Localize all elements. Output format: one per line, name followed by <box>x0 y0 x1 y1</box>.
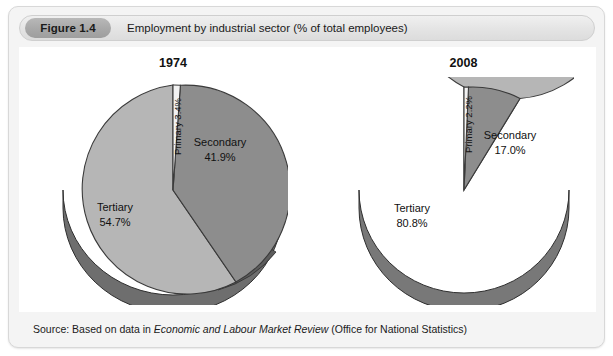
pie-chart-1974-title: 1974 <box>19 56 327 70</box>
pie-2008-label-tertiary-value: 80.8% <box>396 217 427 229</box>
figure-source-publication: Economic and Labour Market Review <box>154 323 329 335</box>
pie-1974-label-secondary-value: 41.9% <box>204 151 235 163</box>
figure-root: Figure 1.4 Employment by industrial sect… <box>0 0 613 356</box>
pie-2008-depth <box>359 190 569 305</box>
figure-source-prefix: Source: Based on data in <box>33 323 154 335</box>
pie-1974-label-primary: Primary 3.4% <box>172 97 183 155</box>
pie-1974-label-secondary-name: Secondary <box>194 136 247 148</box>
pie-chart-1974-canvas: Primary 3.4% Secondary 41.9% Tertiary 54… <box>19 77 327 305</box>
pie-1974-label-tertiary-name: Tertiary <box>97 201 134 213</box>
pie-chart-1974: 1974 <box>19 47 327 312</box>
figure-source: Source: Based on data in Economic and La… <box>33 323 467 335</box>
pie-2008-label-secondary-value: 17.0% <box>494 144 525 156</box>
pie-2008-label-primary: Primary 2.2% <box>463 95 474 153</box>
figure-number-badge: Figure 1.4 <box>25 18 111 38</box>
pie-chart-2008-title: 2008 <box>331 56 596 70</box>
pie-2008-label-secondary-name: Secondary <box>483 129 536 141</box>
pie-1974-label-tertiary-value: 54.7% <box>99 216 130 228</box>
pie-chart-2008-canvas: Primary 2.2% Secondary 17.0% Tertiary 80… <box>331 77 596 305</box>
figure-card: Figure 1.4 Employment by industrial sect… <box>8 6 605 348</box>
pie-2008-label-tertiary-name: Tertiary <box>393 202 430 214</box>
figure-source-suffix: (Office for National Statistics) <box>328 323 467 335</box>
figure-header: Figure 1.4 Employment by industrial sect… <box>19 15 595 41</box>
pie-chart-2008: 2008 Primary 2.2% Secondary <box>331 47 596 312</box>
figure-caption: Employment by industrial sector (% of to… <box>127 22 408 34</box>
